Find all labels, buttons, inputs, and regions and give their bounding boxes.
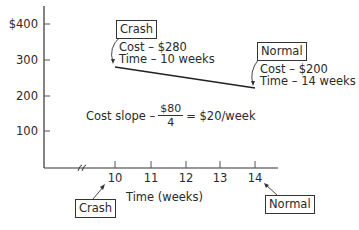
x-tick-label: 11 (141, 173, 161, 185)
crash-marker-arrowhead-icon (100, 184, 105, 190)
y-tick-label: 100 (8, 126, 38, 138)
cost-slope-numerator: $80 (158, 103, 183, 116)
normal-time-text: Time – 14 weeks (260, 75, 356, 89)
cost-slope-prefix: Cost slope – (86, 109, 155, 123)
normal-marker-arrow-icon (266, 185, 277, 195)
y-tick-label: $400 (8, 19, 38, 31)
cost-slope-result: = $20/week (186, 109, 255, 123)
cost-line (115, 67, 255, 88)
normal-axis-marker: Normal (265, 195, 315, 214)
y-tick-marks (44, 24, 50, 131)
x-axis-title: Time (weeks) (126, 192, 203, 204)
cost-slope-formula: Cost slope –$804= $20/week (86, 103, 256, 129)
normal-arrowhead-icon (251, 81, 255, 86)
crash-axis-marker: Crash (75, 199, 116, 218)
x-tick-marks (115, 161, 255, 168)
x-tick-label: 10 (105, 173, 125, 185)
x-tick-label: 13 (210, 173, 230, 185)
cost-slope-denominator: 4 (158, 116, 183, 129)
y-tick-label: 200 (8, 91, 38, 103)
x-tick-label: 14 (245, 173, 265, 185)
cost-slope-fraction: $804 (158, 103, 183, 129)
normal-label-box: Normal (257, 42, 307, 61)
y-tick-label: 300 (8, 55, 38, 67)
normal-arrow-icon (252, 60, 258, 84)
crash-time-text: Time – 10 weeks (119, 53, 215, 67)
x-tick-label: 12 (176, 173, 196, 185)
crash-label-box: Crash (116, 20, 157, 39)
crash-arrowhead-icon (111, 59, 115, 64)
